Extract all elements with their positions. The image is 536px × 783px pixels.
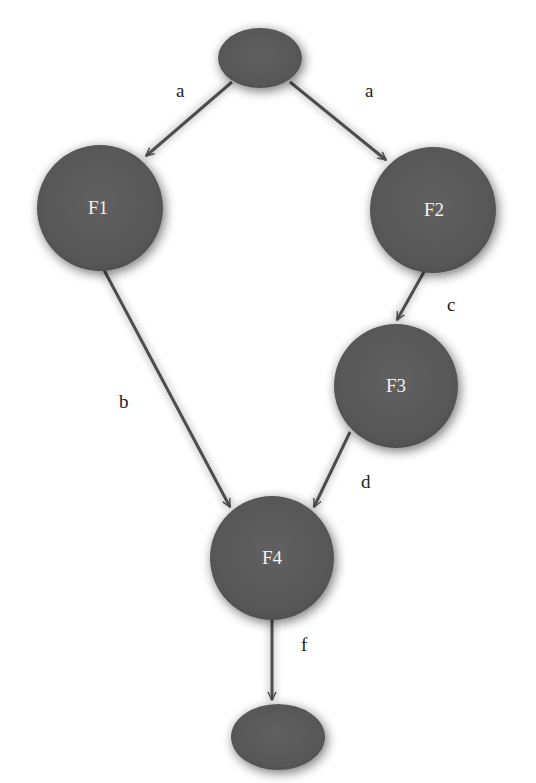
- start-node: [218, 28, 302, 88]
- node-f3: F3: [334, 324, 458, 448]
- edge-f2-to-f3: [397, 270, 425, 320]
- edge-label-f3-f4: d: [361, 471, 371, 492]
- node-f3-label: F3: [386, 375, 406, 396]
- node-f2: F2: [370, 147, 496, 273]
- edge-label-f4-end: f: [301, 634, 308, 655]
- edge-label-f2-f3: c: [447, 294, 455, 315]
- flow-diagram: F1 F2 F3 F4 a a c b d f: [0, 0, 536, 783]
- end-node: [231, 704, 325, 770]
- edge-f1-to-f4: [104, 270, 230, 507]
- node-f1: F1: [37, 145, 163, 271]
- node-f1-label: F1: [88, 197, 108, 218]
- edge-label-start-f1: a: [176, 80, 185, 101]
- node-f4-label: F4: [262, 547, 283, 568]
- node-f4: F4: [210, 496, 334, 620]
- edge-start-to-f1: [146, 82, 232, 156]
- edge-f3-to-f4: [314, 432, 350, 507]
- edge-label-f1-f4: b: [119, 391, 129, 412]
- node-f2-label: F2: [424, 199, 444, 220]
- edge-label-start-f2: a: [365, 80, 374, 101]
- nodes-layer: F1 F2 F3 F4: [37, 28, 496, 770]
